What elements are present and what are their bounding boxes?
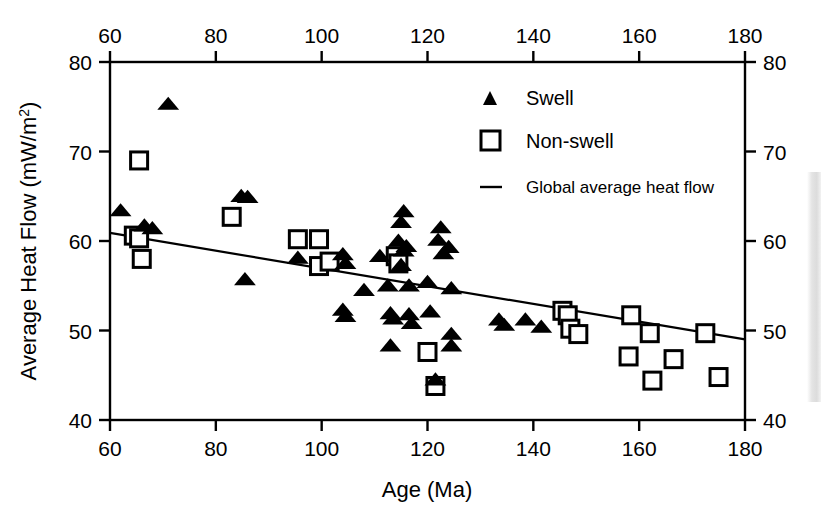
open-square-icon (481, 131, 500, 150)
legend-item-global-average: Global average heat flow (480, 178, 715, 197)
data-point-swell (417, 275, 439, 288)
data-point-non-swell (289, 231, 306, 248)
legend-label-global-average: Global average heat flow (526, 178, 715, 197)
data-point-non-swell (419, 343, 436, 360)
data-point-non-swell (311, 231, 328, 248)
y-tick-label-right: 80 (763, 51, 786, 74)
x-tick-label-top: 120 (410, 24, 445, 47)
data-point-swell (430, 220, 452, 233)
data-point-non-swell (570, 326, 587, 343)
y-axis-left-ticks: 8070605040 (69, 51, 110, 432)
x-tick-label-top: 60 (98, 24, 121, 47)
heat-flow-scatter-chart: 6080100120140160180 6080100120140160180 … (0, 0, 821, 523)
plot-frame (110, 62, 745, 420)
data-point-non-swell (321, 253, 338, 270)
data-point-non-swell (697, 325, 714, 342)
svg-text:Average Heat Flow (mW/m2): Average Heat Flow (mW/m2) (16, 102, 41, 381)
data-point-non-swell (641, 325, 658, 342)
y-tick-label-right: 50 (763, 320, 786, 343)
data-point-swell (440, 338, 462, 351)
data-point-swell (287, 251, 309, 264)
data-point-non-swell (665, 351, 682, 368)
x-tick-label: 100 (304, 437, 339, 460)
y-tick-label-right: 40 (763, 409, 786, 432)
x-tick-label: 60 (98, 437, 121, 460)
data-point-swell (234, 272, 256, 285)
y-tick-label-right: 70 (763, 141, 786, 164)
y-axis-title-superscript: 2 (16, 109, 32, 117)
x-tick-label: 120 (410, 437, 445, 460)
y-axis-right-ticks: 8070605040 (745, 51, 786, 432)
data-point-non-swell (710, 369, 727, 386)
legend-label-non-swell: Non-swell (526, 130, 614, 152)
y-axis-title-main: Average Heat Flow (mW/m (16, 117, 41, 381)
legend-item-swell: Swell (483, 87, 574, 109)
data-point-non-swell (131, 152, 148, 169)
x-tick-label-top: 80 (204, 24, 227, 47)
data-point-swell (514, 312, 536, 325)
data-point-swell (398, 307, 420, 320)
data-point-swell (530, 320, 552, 333)
y-tick-label: 40 (69, 409, 92, 432)
x-tick-label-top: 140 (516, 24, 551, 47)
x-tick-label-top: 100 (304, 24, 339, 47)
x-tick-label: 160 (622, 437, 657, 460)
x-axis-title: Age (Ma) (382, 477, 472, 502)
y-tick-label-right: 60 (763, 230, 786, 253)
y-tick-label: 60 (69, 230, 92, 253)
data-point-non-swell (223, 208, 240, 225)
x-axis-bottom-ticks: 6080100120140160180 (98, 420, 762, 460)
x-axis-top-ticks: 6080100120140160180 (98, 24, 762, 62)
x-tick-label: 80 (204, 437, 227, 460)
plot-border (110, 62, 745, 420)
data-point-swell (380, 338, 402, 351)
data-point-non-swell (620, 348, 637, 365)
x-tick-label-top: 160 (622, 24, 657, 47)
legend-label-swell: Swell (526, 87, 574, 109)
data-point-non-swell (133, 250, 150, 267)
x-tick-label: 180 (727, 437, 762, 460)
data-point-non-swell (644, 372, 661, 389)
chart-legend: Swell Non-swell Global average heat flow (480, 87, 715, 197)
y-axis-title-tail: ) (16, 102, 41, 109)
y-axis-title: Average Heat Flow (mW/m2) (16, 102, 41, 381)
data-point-swell (353, 283, 375, 296)
data-point-swell (440, 327, 462, 340)
data-point-non-swell (623, 307, 640, 324)
legend-item-non-swell: Non-swell (481, 130, 614, 152)
scan-edge-artifact (807, 172, 821, 402)
x-tick-label: 140 (516, 437, 551, 460)
filled-triangle-icon (483, 91, 497, 105)
data-point-swell (419, 304, 441, 317)
figure-canvas: 6080100120140160180 6080100120140160180 … (0, 0, 821, 523)
data-point-swell (110, 203, 132, 216)
data-point-swell (440, 281, 462, 294)
data-point-swell (393, 204, 415, 217)
y-tick-label: 70 (69, 141, 92, 164)
y-tick-label: 80 (69, 51, 92, 74)
y-tick-label: 50 (69, 320, 92, 343)
x-tick-label-top: 180 (727, 24, 762, 47)
data-point-swell (157, 97, 179, 110)
